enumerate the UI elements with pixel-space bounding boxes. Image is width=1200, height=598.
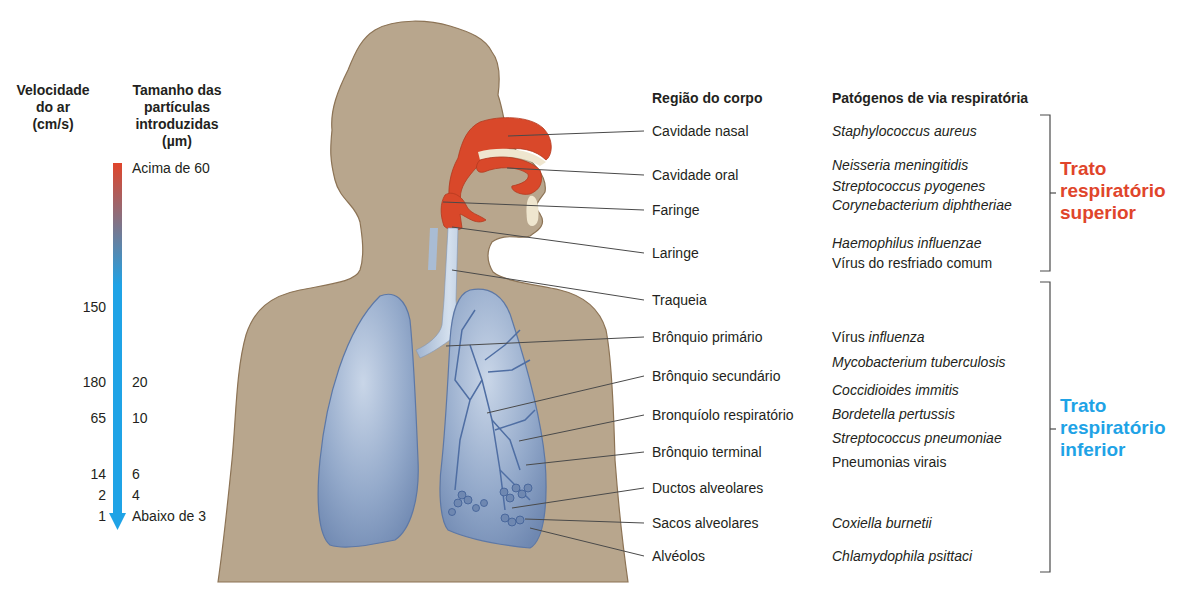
region-label-larynx: Laringe: [652, 245, 699, 261]
particle-size-header-line: partículas: [122, 99, 232, 116]
pathogen-entry: Corynebacterium diphtheriae: [832, 195, 1012, 215]
pathogen-entry: Coccidioides immitis: [832, 380, 959, 400]
pathogen-entry: Streptococcus pneumoniae: [832, 428, 1002, 448]
pathogen-name: Chlamydophila psittaci: [832, 548, 972, 564]
pathogen-entry: Neisseria meningitidis: [832, 155, 968, 175]
region-label-alveolar-sacs: Sacos alveolares: [652, 515, 759, 531]
region-column-header: Região do corpo: [652, 90, 762, 107]
region-label-pharynx: Faringe: [652, 202, 699, 218]
velocity-header-line: Velocidade: [8, 82, 98, 99]
tract-label-line: Trato: [1060, 395, 1166, 417]
pathogen-name: Coccidioides immitis: [832, 382, 959, 398]
pathogen-entry: Bordetella pertussis: [832, 404, 955, 424]
pathogen-name: Bordetella pertussis: [832, 406, 955, 422]
velocity-value: 180: [83, 374, 106, 390]
region-label-alveoli: Alvéolos: [652, 548, 705, 564]
velocity-header-line: do ar: [8, 99, 98, 116]
upper-respiratory-tract-label: Trato respiratório superior: [1060, 158, 1166, 224]
airflow-gradient-bar: [113, 163, 122, 513]
particle-size-value: 4: [132, 487, 140, 503]
region-label-nasal-cavity: Cavidade nasal: [652, 123, 749, 139]
particle-size-value: 10: [132, 410, 148, 426]
particle-size-value: Acima de 60: [132, 160, 210, 176]
pathogen-entry: Streptococcus pyogenes: [832, 176, 985, 196]
pathogen-name: influenza: [869, 329, 925, 345]
pathogen-prefix: Vírus: [832, 329, 869, 345]
tract-label-line: Trato: [1060, 158, 1166, 180]
particle-size-value: 20: [132, 374, 148, 390]
velocity-header-line: (cm/s): [8, 116, 98, 133]
particle-size-header-line: (µm): [122, 133, 232, 150]
particle-size-value: Abaixo de 3: [132, 508, 206, 524]
velocity-header: Velocidade do ar (cm/s): [8, 82, 98, 133]
pathogen-entry: Vírus influenza: [832, 327, 925, 347]
pathogen-entry: Vírus do resfriado comum: [832, 253, 992, 273]
region-label-terminal-bronchus: Brônquio terminal: [652, 444, 762, 460]
pathogen-entry: Haemophilus influenzae: [832, 233, 981, 253]
pathogens-column-header: Patógenos de via respiratória: [832, 90, 1028, 107]
velocity-value: 2: [98, 487, 106, 503]
pathogen-name: Streptococcus pyogenes: [832, 178, 985, 194]
tract-label-line: respiratório: [1060, 417, 1166, 439]
body-silhouette: [218, 21, 628, 582]
arrow-down-icon: [109, 513, 126, 530]
velocity-value: 150: [83, 299, 106, 315]
pathogen-prefix: Vírus do resfriado comum: [832, 255, 992, 271]
velocity-value: 14: [90, 466, 106, 482]
pathogen-name: Neisseria meningitidis: [832, 157, 968, 173]
particle-size-header-line: Tamanho das: [122, 82, 232, 99]
region-label-secondary-bronchus: Brônquio secundário: [652, 368, 780, 384]
velocity-value: 65: [90, 410, 106, 426]
pathogen-name: Coxiella burnetii: [832, 515, 932, 531]
pathogen-entry: Staphylococcus aureus: [832, 121, 977, 141]
tract-label-line: inferior: [1060, 439, 1166, 461]
tract-label-line: respiratório: [1060, 180, 1166, 202]
region-label-trachea: Traqueia: [652, 292, 707, 308]
pathogen-entry: Coxiella burnetii: [832, 513, 932, 533]
region-label-alveolar-ducts: Ductos alveolares: [652, 480, 763, 496]
region-label-primary-bronchus: Brônquio primário: [652, 329, 763, 345]
pathogen-name: Mycobacterium tuberculosis: [832, 354, 1006, 370]
particle-size-header-line: introduzidas: [122, 116, 232, 133]
lower-respiratory-tract-label: Trato respiratório inferior: [1060, 395, 1166, 461]
pathogen-prefix: Pneumonias virais: [832, 454, 946, 470]
region-label-oral-cavity: Cavidade oral: [652, 167, 738, 183]
pathogen-name: Staphylococcus aureus: [832, 123, 977, 139]
region-label-respiratory-bronchiole: Bronquíolo respiratório: [652, 407, 794, 423]
particle-size-header: Tamanho das partículas introduzidas (µm): [122, 82, 232, 150]
pathogen-name: Corynebacterium diphtheriae: [832, 197, 1012, 213]
pathogen-name: Haemophilus influenzae: [832, 235, 981, 251]
pathogen-entry: Pneumonias virais: [832, 452, 946, 472]
pathogen-name: Streptococcus pneumoniae: [832, 430, 1002, 446]
pathogen-entry: Mycobacterium tuberculosis: [832, 352, 1006, 372]
tract-brackets: [1040, 115, 1056, 572]
particle-size-value: 6: [132, 466, 140, 482]
tract-label-line: superior: [1060, 202, 1166, 224]
velocity-value: 1: [98, 508, 106, 524]
pathogen-entry: Chlamydophila psittaci: [832, 546, 972, 566]
